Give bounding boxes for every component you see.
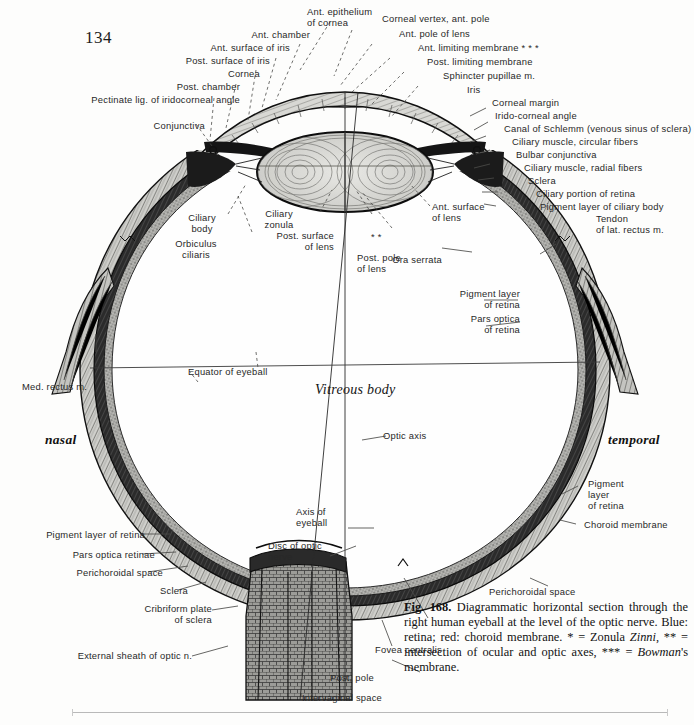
label-ant-epithelium-cornea-line2: of cornea xyxy=(307,17,348,28)
label-med-rectus-muscle: Med. rectus m. xyxy=(22,381,87,392)
label-iris: Iris xyxy=(467,84,480,95)
label-canal-of-schlemm: Canal of Schlemm (venous sinus of sclera… xyxy=(504,123,691,134)
label-conjunctiva: Conjunctiva xyxy=(60,120,205,131)
label-axis-of-eyeball: Axis of xyxy=(296,506,326,517)
label-pigment-layer-ciliary-body: Pigment layer of ciliary body xyxy=(540,201,664,212)
label-intervaginal-space: Intervaginal space xyxy=(302,692,382,703)
label-axis-of-eyeball-line2: eyeball xyxy=(296,517,327,528)
label-external-sheath-optic-nerve: External sheath of optic n. xyxy=(22,650,192,661)
label-pigment-layer-retina-lower-line2: layer xyxy=(588,489,609,500)
label-tendon-lat-rectus: Tendon xyxy=(596,213,628,224)
label-ciliary-body: Ciliary xyxy=(172,212,232,223)
bottom-rule xyxy=(72,712,668,713)
label-pigment-layer-retina-right-line2: of retina xyxy=(440,299,520,310)
label-cornea: Cornea xyxy=(75,68,260,79)
label-cribriform-plate: Cribriform plate xyxy=(52,603,212,614)
label-ant-epithelium-cornea: Ant. epithelium xyxy=(307,6,372,17)
label-perichoroidal-space-right: Perichoroidal space xyxy=(489,586,576,597)
label-post-chamber: Post. chamber xyxy=(55,81,240,92)
label-disc-of-optic-nerve-line2: nerve xyxy=(268,551,293,562)
label-ant-limiting-membrane: Ant. limiting membrane * * * xyxy=(418,42,539,53)
label-choroid-membrane: Choroid membrane xyxy=(584,519,668,530)
label-ciliary-muscle-circular: Ciliary muscle, circular fibers xyxy=(512,136,638,147)
label-pigment-layer-retina-right: Pigment layer xyxy=(440,288,520,299)
label-pars-optica-retina-right: Pars optica xyxy=(440,313,520,324)
label-equator-of-eyeball: Equator of eyeball xyxy=(188,366,268,377)
label-ant-pole-of-lens: Ant. pole of lens xyxy=(399,28,470,39)
label-cribriform-plate-line2: of sclera xyxy=(52,614,212,625)
label-ciliary-zonula: Ciliary xyxy=(252,208,306,219)
label-corneal-margin: Corneal margin xyxy=(492,97,559,108)
caption-footnote-zinni: Zinni xyxy=(630,630,656,644)
label-tendon-lat-rectus-line2: of lat. rectus m. xyxy=(596,224,664,235)
label-irido-corneal-angle: Irido-corneal angle xyxy=(495,110,577,121)
label-temporal: temporal xyxy=(608,432,660,448)
label-ciliary-zonula-line2: zonula xyxy=(252,219,306,230)
label-sphincter-pupillae: Sphincter pupillae m. xyxy=(443,70,535,81)
label-post-surface-of-lens: Post. surface xyxy=(228,230,334,241)
label-ora-serrata: Ora serrata xyxy=(372,254,442,265)
label-pars-optica-retinae: Pars optica retinae xyxy=(30,549,155,560)
label-vitreous-body: Vitreous body xyxy=(315,382,396,398)
label-ant-surface-of-iris: Ant. surface of iris xyxy=(105,42,290,53)
label-post-surface-of-lens-line2: of lens xyxy=(228,241,334,252)
label-sclera-top: Sclera xyxy=(528,175,556,186)
label-ciliary-portion-of-retina: Ciliary portion of retina xyxy=(536,188,635,199)
label-ant-chamber: Ant. chamber xyxy=(125,29,310,40)
label-asterisk-intersection: * * xyxy=(371,231,382,242)
caption-footnote-prefix: * = Zonula xyxy=(567,630,630,644)
label-ciliary-muscle-radial: Ciliary muscle, radial fibers xyxy=(524,162,642,173)
label-post-limiting-membrane: Post. limiting membrane xyxy=(427,56,533,67)
caption-figure-number: Fig. 168. xyxy=(404,600,451,614)
label-nasal: nasal xyxy=(45,432,77,448)
caption-footnote-bowman: Bowman xyxy=(638,645,681,659)
label-pigment-layer-retina-lower: Pigment xyxy=(588,478,624,489)
label-orbiculus-ciliaris-line2: ciliaris xyxy=(160,249,232,260)
label-perichoroidal-space-left: Perichoroidal space xyxy=(38,567,163,578)
label-disc-of-optic-nerve: Disc of optic xyxy=(268,540,322,551)
label-optic-axis: Optic axis xyxy=(383,430,426,441)
label-ant-surface-of-lens: Ant. surface xyxy=(432,201,485,212)
label-sclera-lower: Sclera xyxy=(98,585,188,596)
label-post-pole: Post. pole xyxy=(330,672,374,683)
label-ant-surface-of-lens-line2: of lens xyxy=(432,212,461,223)
label-bulbar-conjunctiva: Bulbar conjunctiva xyxy=(516,149,597,160)
label-pectinate-ligament: Pectinate lig. of iridocorneal angle xyxy=(20,94,240,105)
label-corneal-vertex: Corneal vertex, ant. pole xyxy=(382,13,490,24)
label-pars-optica-retina-right-line2: of retina xyxy=(440,324,520,335)
figure-plate: 134 Ant. epithelium of cornea Corneal ve… xyxy=(0,0,694,725)
label-pigment-layer-retina-left: Pigment layer of retina xyxy=(10,529,145,540)
label-ciliary-body-line2: body xyxy=(172,223,232,234)
label-orbiculus-ciliaris: Orbiculus xyxy=(160,238,232,249)
label-pigment-layer-retina-lower-line3: of retina xyxy=(588,500,624,511)
label-post-surface-of-iris: Post. surface of iris xyxy=(85,55,270,66)
figure-caption: Fig. 168. Diagrammatic horizontal sectio… xyxy=(404,600,688,675)
